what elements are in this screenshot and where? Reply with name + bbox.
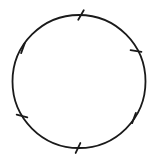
tick-mark-2 (131, 50, 142, 52)
circle-diagram (0, 0, 154, 156)
circle (13, 15, 146, 148)
